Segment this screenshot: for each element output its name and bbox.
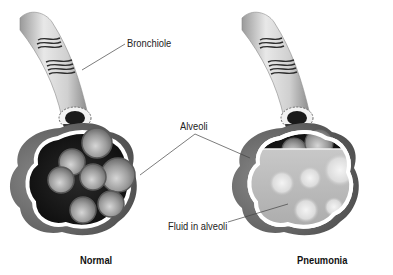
bronchiole-tube-pneumonia	[242, 12, 313, 138]
alveoli-label: Alveoli	[180, 120, 208, 132]
normal-illustration	[10, 12, 137, 235]
bronchiole-label: Bronchiole	[127, 37, 171, 49]
pneumonia-caption: Pneumonia	[297, 254, 347, 266]
bronchiole-tube-normal	[20, 12, 91, 138]
fluid-in-alveoli-label: Fluid in alveoli	[168, 220, 227, 232]
normal-caption: Normal	[80, 254, 112, 266]
diagram-stage: Bronchiole Alveoli Fluid in alveoli Norm…	[0, 0, 393, 275]
pneumonia-illustration	[232, 12, 362, 239]
